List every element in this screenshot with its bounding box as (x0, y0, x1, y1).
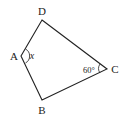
vertex-label-a: A (10, 50, 18, 62)
vertex-label-b: B (38, 104, 45, 116)
angle-arc-c (99, 64, 100, 73)
vertex-label-d: D (38, 5, 46, 17)
angle-label-60: 60° (83, 65, 95, 75)
angle-label-x: x (29, 50, 35, 61)
quadrilateral-diagram: D A B C x 60° (0, 0, 122, 120)
vertex-label-c: C (111, 63, 118, 75)
